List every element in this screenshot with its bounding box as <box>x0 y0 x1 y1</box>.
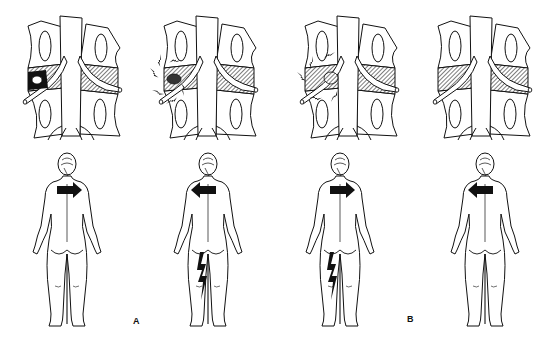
disc-herniation-marker <box>32 76 42 84</box>
body-figure-1 <box>33 153 101 326</box>
spine-panel-4 <box>433 16 532 140</box>
spine-panel-2 <box>149 16 258 140</box>
body-figure-4 <box>451 153 519 326</box>
spine-panel-3 <box>296 16 398 140</box>
panel-label-b: B <box>407 314 414 324</box>
body-figure-2 <box>174 153 242 326</box>
figure-canvas: A B <box>0 0 544 338</box>
spine-panel-1 <box>23 16 122 140</box>
body-figure-3 <box>306 153 374 326</box>
panel-label-a: A <box>133 316 140 326</box>
illustration <box>0 0 544 338</box>
